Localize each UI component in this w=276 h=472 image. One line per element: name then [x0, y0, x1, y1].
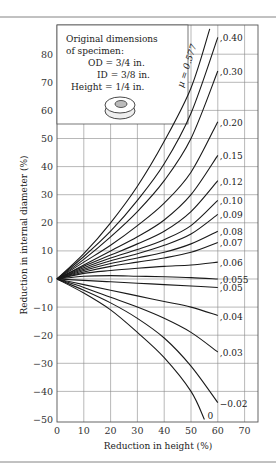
x-axis-title: Reduction in height (%) — [104, 441, 212, 451]
curve-label: ,0.06 — [220, 258, 243, 268]
x-tick-label: 30 — [131, 425, 143, 436]
inset-line-2: of specimen: — [66, 46, 124, 56]
ring-specimen-icon — [105, 97, 135, 119]
curve-label: ,0.03 — [220, 348, 243, 358]
y-tick-label: 0 — [47, 274, 53, 285]
curve-label: ,0.15 — [220, 151, 243, 161]
inset-box: Original dimensions of specimen: OD = 3/… — [57, 25, 188, 124]
y-tick-label: −20 — [33, 330, 53, 341]
y-tick-label: 70 — [41, 77, 53, 88]
curve-label: −0.02 — [220, 399, 248, 409]
curve-label: ,0.12 — [220, 177, 243, 187]
x-tick-label: 40 — [158, 425, 170, 436]
curve-label: 0 — [207, 411, 213, 421]
x-tick-label: 10 — [78, 425, 90, 436]
x-tick-label: 20 — [105, 425, 117, 436]
curve-label: ,0.40 — [220, 33, 243, 43]
curve-label: ,0.20 — [220, 118, 243, 128]
y-tick-label: 50 — [41, 133, 53, 144]
inset-line-3: OD = 3/4 in. — [88, 58, 145, 68]
chart: 010203040506070−50−40−30−20−100102030405… — [0, 0, 276, 472]
y-tick-label: −50 — [33, 414, 53, 425]
y-tick-label: 20 — [41, 217, 53, 228]
x-tick-label: 70 — [239, 425, 251, 436]
y-tick-label: 40 — [41, 161, 53, 172]
inset-line-4: ID = 3/8 in. — [97, 70, 150, 80]
curve-label: ,0.30 — [220, 67, 243, 77]
inset-line-1: Original dimensions — [66, 34, 158, 44]
curve — [57, 279, 204, 420]
curve-label: ,0.04 — [220, 312, 243, 322]
curve-label: ,0.08 — [220, 227, 243, 237]
y-tick-label: −30 — [33, 358, 53, 369]
curve-label: ,0.10 — [220, 196, 243, 206]
y-axis-title: Reduction in internal diameter (%) — [19, 155, 29, 314]
curve-label: ,0.05 — [220, 283, 243, 293]
y-tick-label: −10 — [33, 302, 53, 313]
inset-line-5: Height = 1/4 in. — [71, 82, 145, 92]
x-tick-label: 60 — [212, 425, 224, 436]
x-tick-label: 0 — [54, 425, 60, 436]
y-tick-label: 60 — [41, 105, 53, 116]
curve-label: ,0.09 — [220, 210, 243, 220]
x-tick-label: 50 — [185, 425, 197, 436]
y-tick-label: −40 — [33, 386, 53, 397]
y-tick-label: 10 — [41, 245, 53, 256]
y-tick-label: 30 — [41, 189, 53, 200]
y-tick-label: 80 — [41, 49, 53, 60]
curve-label: ,0.07 — [220, 238, 243, 248]
